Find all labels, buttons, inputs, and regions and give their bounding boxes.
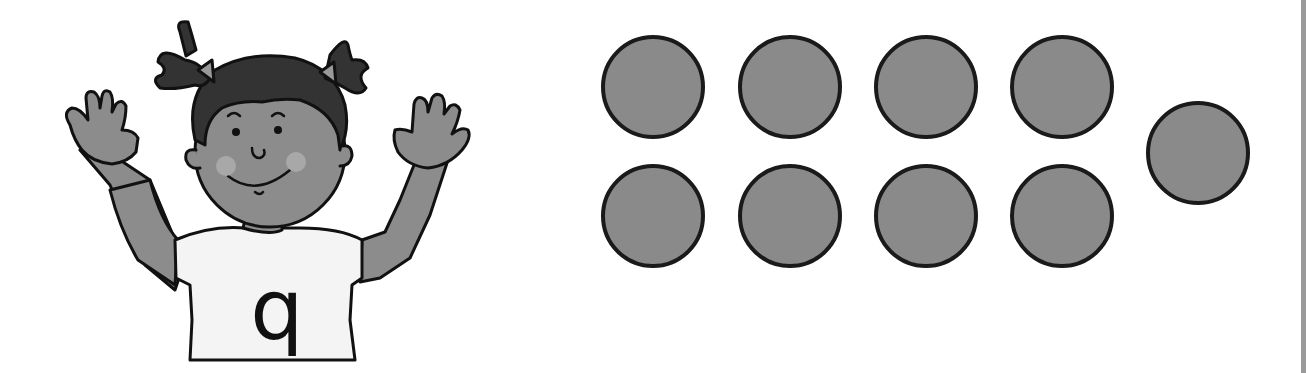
counter-dot — [1012, 166, 1112, 266]
counter-dot — [876, 166, 976, 266]
counter-dot — [1148, 103, 1248, 203]
counter-dot — [603, 37, 703, 137]
counter-dot — [740, 166, 840, 266]
counter-dot — [603, 166, 703, 266]
counter-dot — [740, 37, 840, 137]
counter-dots — [0, 0, 1306, 373]
page-edge-bar — [1301, 0, 1306, 373]
counter-dot — [1012, 37, 1112, 137]
worksheet-figure: q — [0, 0, 1306, 373]
counter-dot — [876, 37, 976, 137]
